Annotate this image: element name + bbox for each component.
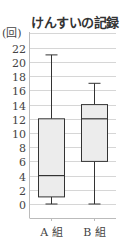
box-a [39,55,65,204]
y-tick-label: 6 [19,156,26,169]
y-tick-label: 4 [19,171,26,184]
y-tick-label: 2 [19,185,26,198]
y-tick-label: 20 [12,57,26,70]
y-tick-label: 22 [12,43,26,56]
y-axis-ticks: 0246810121416182022 [12,43,26,212]
iqr-box [82,105,108,162]
box-b [82,83,108,204]
x-tick-label: A 組 [39,226,62,239]
y-tick-label: 16 [12,85,26,98]
y-tick-label: 18 [12,71,26,84]
x-tick-label: B 組 [83,226,106,239]
y-tick-label: 12 [12,114,26,127]
boxes [39,55,108,204]
y-tick-label: 14 [12,100,26,113]
iqr-box [39,119,65,197]
y-tick-label: 10 [12,128,26,141]
y-tick-label: 0 [19,199,26,212]
x-axis-labels: A 組B 組 [39,218,106,239]
y-tick-label: 8 [19,142,26,155]
box-plot: 0246810121416182022 A 組B 組 [0,0,127,250]
